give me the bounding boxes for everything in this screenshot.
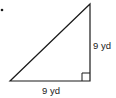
triangle-outline [10, 4, 90, 81]
right-angle-marker [82, 73, 90, 81]
right-triangle-diagram: 9 yd 9 yd [0, 0, 116, 98]
vertical-leg-label: 9 yd [93, 40, 111, 51]
bullet-dot [1, 9, 4, 12]
horizontal-leg-label: 9 yd [42, 85, 60, 96]
